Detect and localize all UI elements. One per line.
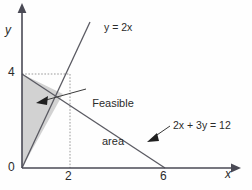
origin-label-0: 0	[8, 161, 15, 175]
constraint-label-leader-arrowhead-icon	[147, 133, 159, 142]
y-axis-label: y	[5, 24, 11, 38]
line-label-y-2x: y = 2x	[104, 21, 132, 33]
y-axis-arrowhead-icon	[18, 3, 27, 13]
y-tick-label-4: 4	[8, 66, 15, 80]
line-label-2x-3y-12: 2x + 3y = 12	[173, 119, 231, 131]
x-tick-label-6: 6	[160, 170, 167, 184]
x-tick-label-2: 2	[65, 170, 72, 184]
x-axis-arrowhead-icon	[231, 164, 241, 173]
feasible-area-annotation-line-1: Feasible	[82, 97, 144, 110]
feasible-area-annotation-line-2: area	[82, 135, 144, 148]
feasible-area-chart: y x 4 0 2 6 y = 2x 2x + 3y = 12 Feasible…	[0, 0, 252, 190]
x-axis-label: x	[225, 168, 231, 182]
feasible-area-annotation: Feasible area	[82, 72, 144, 173]
